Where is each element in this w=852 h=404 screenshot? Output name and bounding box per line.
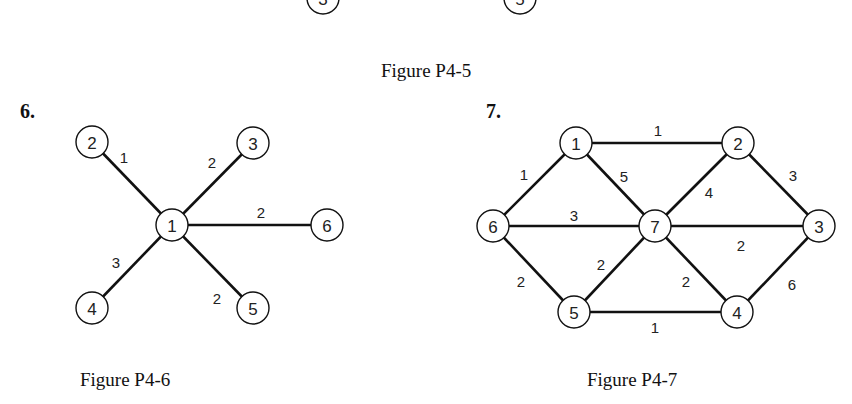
edge-weight-label: 1 — [651, 319, 659, 336]
edge-weight-label: 2 — [737, 237, 745, 254]
node-label: 7 — [650, 218, 659, 237]
node-label: 5 — [515, 0, 524, 9]
edge-2-7 — [655, 143, 738, 226]
edge-weight-label: 3 — [789, 167, 797, 184]
node-label: 1 — [167, 217, 176, 236]
problem-number-7: 7. — [486, 100, 501, 123]
node-label: 6 — [322, 217, 331, 236]
node-label: 3 — [814, 218, 823, 237]
node-label: 4 — [732, 304, 741, 323]
edge-weight-label: 6 — [788, 276, 796, 293]
edge-1-4 — [92, 225, 172, 308]
edge-weight-label: 2 — [208, 154, 216, 171]
edge-2-3 — [738, 143, 819, 226]
edge-1-7 — [576, 143, 655, 226]
edge-weight-label: 1 — [654, 122, 662, 139]
problem-number-6: 6. — [20, 100, 35, 123]
edge-1-2 — [92, 142, 172, 225]
figure-p4-6-graph: 12232123456 — [76, 126, 343, 324]
edge-weight-label: 3 — [570, 207, 578, 224]
edge-weight-label: 2 — [682, 273, 690, 290]
node-label: 2 — [87, 134, 96, 153]
figure-p4-7-graph: 1154332222611234567 — [477, 122, 835, 336]
caption-p4-5: Figure P4-5 — [381, 60, 471, 82]
node-label: 5 — [569, 304, 578, 323]
edge-7-4 — [655, 226, 737, 312]
node-label: 1 — [571, 135, 580, 154]
node-label: 2 — [733, 135, 742, 154]
edge-weight-label: 2 — [517, 273, 525, 290]
edge-3-4 — [737, 226, 819, 312]
edge-weight-label: 1 — [120, 149, 128, 166]
edge-1-6 — [493, 143, 576, 226]
caption-p4-6: Figure P4-6 — [80, 369, 170, 391]
node-label: 4 — [87, 300, 96, 319]
node-label: 6 — [488, 218, 497, 237]
node-label: 5 — [248, 300, 257, 319]
edge-weight-label: 5 — [620, 168, 628, 185]
figure-p4-5-graph: 35 — [307, 0, 536, 14]
edge-weight-label: 3 — [112, 254, 120, 271]
edge-weight-label: 4 — [705, 184, 713, 201]
edge-weight-label: 1 — [520, 166, 528, 183]
node-label: 3 — [248, 135, 257, 154]
edge-6-5 — [493, 226, 574, 312]
edge-weight-label: 2 — [597, 256, 605, 273]
caption-p4-7: Figure P4-7 — [587, 369, 677, 391]
edge-weight-label: 2 — [213, 290, 221, 307]
node-label: 3 — [318, 0, 327, 9]
edge-5-7 — [574, 226, 655, 312]
edge-weight-label: 2 — [257, 204, 265, 221]
